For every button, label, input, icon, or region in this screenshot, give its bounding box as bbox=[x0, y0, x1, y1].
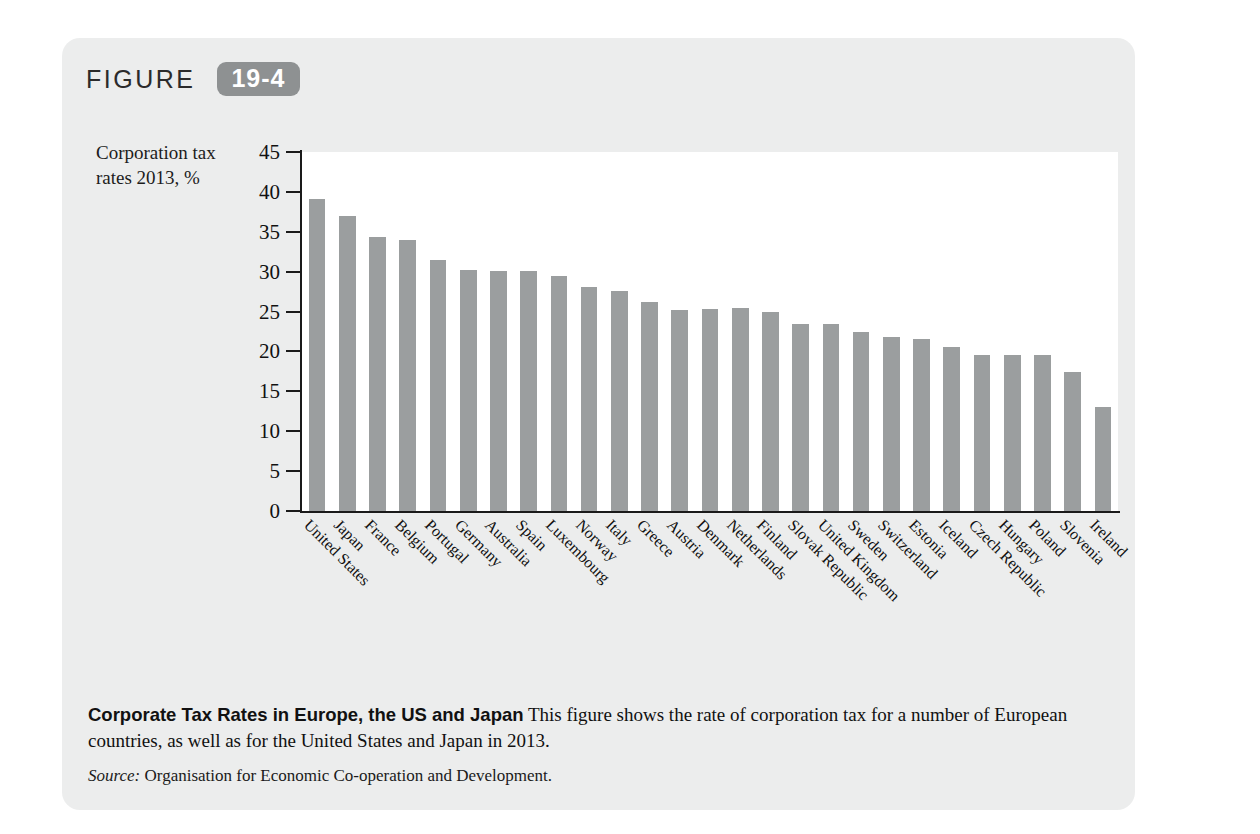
x-axis-line bbox=[300, 511, 1120, 513]
figure-source: Source: Organisation for Economic Co-ope… bbox=[88, 766, 1110, 786]
bar bbox=[399, 240, 416, 511]
x-axis-labels: United StatesJapanFranceBelgiumPortugalG… bbox=[302, 516, 1132, 656]
y-axis-tick bbox=[286, 311, 300, 313]
y-axis-title-line1: Corporation tax bbox=[96, 140, 246, 165]
y-axis-tick-label: 45 bbox=[228, 140, 280, 165]
y-axis-title-line2: rates 2013, % bbox=[96, 165, 246, 190]
y-axis-tick-label: 40 bbox=[228, 179, 280, 204]
y-axis-tick bbox=[286, 350, 300, 352]
y-axis-tick-label: 25 bbox=[228, 299, 280, 324]
y-axis-tick bbox=[286, 231, 300, 233]
y-axis-tick bbox=[286, 430, 300, 432]
bar bbox=[1034, 355, 1051, 511]
bar bbox=[551, 276, 568, 511]
y-axis-tick-label: 35 bbox=[228, 219, 280, 244]
y-axis-line bbox=[300, 150, 302, 513]
figure-label: FIGURE bbox=[86, 65, 195, 94]
y-axis-tick bbox=[286, 390, 300, 392]
y-axis-tick-label: 30 bbox=[228, 259, 280, 284]
source-text: Organisation for Economic Co-operation a… bbox=[145, 766, 553, 785]
y-axis-title: Corporation tax rates 2013, % bbox=[96, 140, 246, 190]
bar bbox=[823, 324, 840, 511]
y-axis-tick-label: 20 bbox=[228, 339, 280, 364]
bar bbox=[762, 312, 779, 511]
bar bbox=[853, 332, 870, 512]
bar bbox=[671, 310, 688, 511]
bar bbox=[430, 260, 447, 511]
bar bbox=[460, 270, 477, 511]
y-axis-tick-label: 5 bbox=[228, 459, 280, 484]
figure-caption: Corporate Tax Rates in Europe, the US an… bbox=[88, 702, 1110, 754]
bar bbox=[792, 324, 809, 511]
bar bbox=[581, 287, 598, 511]
plot-area bbox=[302, 152, 1118, 511]
bar bbox=[309, 199, 326, 511]
page-canvas: FIGURE 19-4 Corporation tax rates 2013, … bbox=[0, 0, 1260, 834]
bar bbox=[913, 339, 930, 511]
y-axis-tick-label: 15 bbox=[228, 379, 280, 404]
bar bbox=[369, 237, 386, 511]
bar bbox=[702, 309, 719, 511]
bar bbox=[974, 355, 991, 511]
bar bbox=[611, 291, 628, 511]
bar bbox=[943, 347, 960, 511]
y-axis-tick-label: 0 bbox=[228, 499, 280, 524]
y-axis-tick bbox=[286, 191, 300, 193]
caption-title: Corporate Tax Rates in Europe, the US an… bbox=[88, 704, 524, 725]
bar bbox=[1095, 407, 1112, 512]
y-axis-tick bbox=[286, 151, 300, 153]
bar bbox=[520, 271, 537, 511]
y-axis-tick bbox=[286, 510, 300, 512]
bars-group bbox=[302, 152, 1118, 511]
bar bbox=[339, 216, 356, 511]
bar bbox=[732, 308, 749, 511]
source-label: Source: bbox=[88, 766, 140, 785]
y-axis-tick-label: 10 bbox=[228, 419, 280, 444]
bar bbox=[641, 302, 658, 511]
bar bbox=[883, 337, 900, 511]
figure-number-badge: 19-4 bbox=[217, 62, 299, 96]
bar bbox=[490, 271, 507, 511]
figure-header: FIGURE 19-4 bbox=[86, 62, 300, 96]
y-axis-tick bbox=[286, 271, 300, 273]
bar bbox=[1064, 372, 1081, 511]
y-axis-tick bbox=[286, 470, 300, 472]
bar bbox=[1004, 355, 1021, 511]
